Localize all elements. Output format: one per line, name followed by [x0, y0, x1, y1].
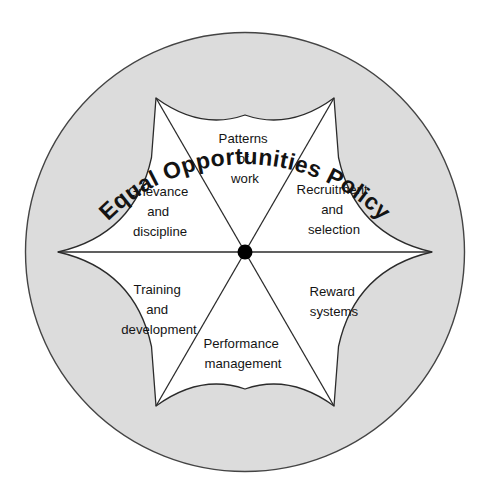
- segment-line: management: [205, 356, 282, 371]
- segment-line: and: [321, 202, 343, 217]
- segment-line: of: [238, 151, 249, 166]
- segment-line: Performance: [203, 336, 279, 351]
- segment-line: and: [147, 204, 169, 219]
- segment-line: Training: [134, 282, 181, 297]
- segment-line: work: [230, 171, 259, 186]
- segment-line: Recruitment: [297, 182, 368, 197]
- center-hub-dot: [238, 245, 253, 260]
- segment-line: development: [121, 322, 197, 337]
- segment-line: systems: [310, 304, 359, 319]
- diagram-root: Equal Opportunities Policy Patterns of w…: [0, 0, 489, 500]
- segment-line: Reward: [309, 284, 354, 299]
- segment-line: and: [146, 302, 168, 317]
- equal-opportunities-policy-diagram: Equal Opportunities Policy Patterns of w…: [0, 0, 489, 500]
- segment-line: discipline: [133, 224, 187, 239]
- segment-line: selection: [308, 222, 360, 237]
- segment-line: Grievance: [128, 184, 188, 199]
- segment-line: Patterns: [219, 131, 269, 146]
